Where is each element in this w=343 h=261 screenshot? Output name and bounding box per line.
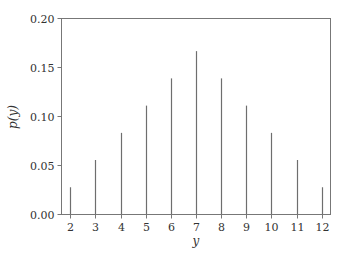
y-tick-label: 0.05 bbox=[30, 160, 55, 173]
x-tick-label: 10 bbox=[265, 221, 279, 234]
stem-chart: 0.000.050.100.150.20 23456789101112 y p(… bbox=[0, 0, 343, 261]
x-tick-label: 9 bbox=[243, 221, 250, 234]
y-tick-label: 0.20 bbox=[30, 13, 55, 26]
y-tick-label: 0.15 bbox=[30, 62, 55, 75]
x-tick-label: 4 bbox=[118, 221, 125, 234]
y-axis-label: p(y) bbox=[6, 105, 20, 129]
y-tick-label: 0.10 bbox=[30, 111, 55, 124]
x-tick-label: 8 bbox=[218, 221, 225, 234]
y-tick-label: 0.00 bbox=[30, 209, 55, 222]
x-tick-label: 6 bbox=[168, 221, 175, 234]
x-tick-label: 11 bbox=[291, 221, 305, 234]
x-tick-label: 2 bbox=[67, 221, 74, 234]
stems bbox=[71, 51, 323, 214]
x-tick-label: 7 bbox=[193, 221, 200, 234]
x-tick-label: 12 bbox=[316, 221, 330, 234]
x-tick-label: 3 bbox=[92, 221, 99, 234]
x-axis-ticks: 23456789101112 bbox=[67, 215, 330, 234]
y-axis-ticks: 0.000.050.100.150.20 bbox=[30, 13, 62, 222]
x-tick-label: 5 bbox=[143, 221, 150, 234]
x-axis-label: y bbox=[192, 234, 200, 248]
